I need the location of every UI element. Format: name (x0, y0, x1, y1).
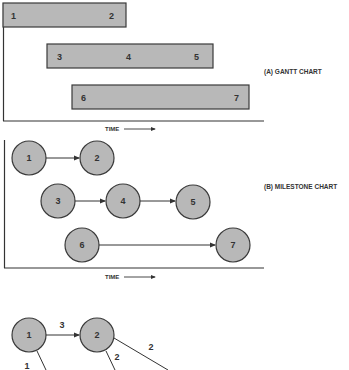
gantt-label: 2 (109, 11, 114, 21)
gantt-label: 5 (194, 52, 199, 62)
network-node-2: 2 (80, 318, 114, 352)
svg-text:7: 7 (230, 240, 235, 250)
network-node-1: 1 (12, 318, 46, 352)
gantt-label: 1 (11, 11, 16, 21)
milestone-node-1: 1 (12, 141, 46, 175)
gantt-bar-1: 1 2 (3, 3, 126, 27)
gantt-time-label: TIME (105, 126, 119, 132)
milestone-node-2: 2 (80, 141, 114, 175)
gantt-chart: 1 2 3 4 5 6 7 (A) GANTT CHART TIME (3, 3, 322, 132)
milestone-node-3: 3 (41, 184, 75, 218)
gantt-label: 7 (234, 93, 239, 103)
svg-text:4: 4 (120, 196, 125, 206)
svg-text:1: 1 (26, 153, 31, 163)
milestone-chart: 1 2 3 4 5 6 7 (B) MILESTONE CHART TIME (4, 140, 337, 280)
svg-text:1: 1 (26, 330, 31, 340)
diagram-canvas: 1 2 3 4 5 6 7 (A) GANTT CHART TIME 1 (0, 0, 349, 370)
network-edge (37, 351, 46, 370)
gantt-label: 4 (126, 52, 131, 62)
edge-weight: 2 (148, 342, 153, 352)
svg-text:2: 2 (94, 153, 99, 163)
svg-text:2: 2 (94, 330, 99, 340)
gantt-bar-3: 6 7 (72, 85, 249, 109)
svg-text:5: 5 (190, 197, 195, 207)
milestone-title: (B) MILESTONE CHART (264, 183, 337, 191)
network-diagram: 3 1 2 2 1 2 (12, 318, 168, 370)
svg-text:6: 6 (79, 240, 84, 250)
gantt-title: (A) GANTT CHART (264, 68, 322, 76)
gantt-bar-2: 3 4 5 (47, 44, 213, 68)
milestone-node-4: 4 (106, 184, 140, 218)
edge-weight: 3 (59, 320, 64, 330)
gantt-label: 3 (57, 52, 62, 62)
milestone-node-6: 6 (65, 228, 99, 262)
svg-text:3: 3 (55, 196, 60, 206)
gantt-label: 6 (81, 93, 86, 103)
edge-weight: 2 (114, 352, 119, 362)
milestone-time-label: TIME (105, 274, 119, 280)
edge-weight: 1 (24, 361, 29, 370)
network-edge (114, 338, 168, 370)
milestone-node-7: 7 (216, 228, 250, 262)
milestone-node-5: 5 (176, 185, 210, 219)
